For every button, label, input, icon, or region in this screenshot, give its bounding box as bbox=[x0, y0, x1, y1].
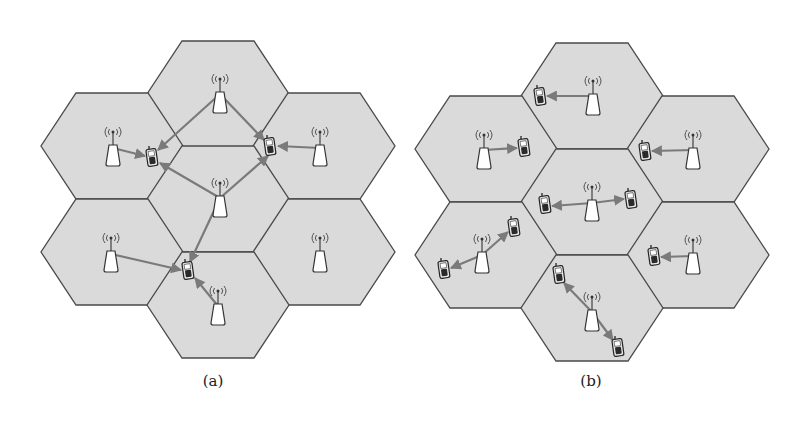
signal-arrow bbox=[652, 150, 693, 151]
panel-b-network bbox=[415, 43, 769, 361]
caption-a: (a) bbox=[203, 372, 224, 390]
caption-b: (b) bbox=[580, 372, 601, 390]
panel-a-network bbox=[41, 41, 395, 358]
cellular-network-diagram bbox=[0, 0, 807, 422]
